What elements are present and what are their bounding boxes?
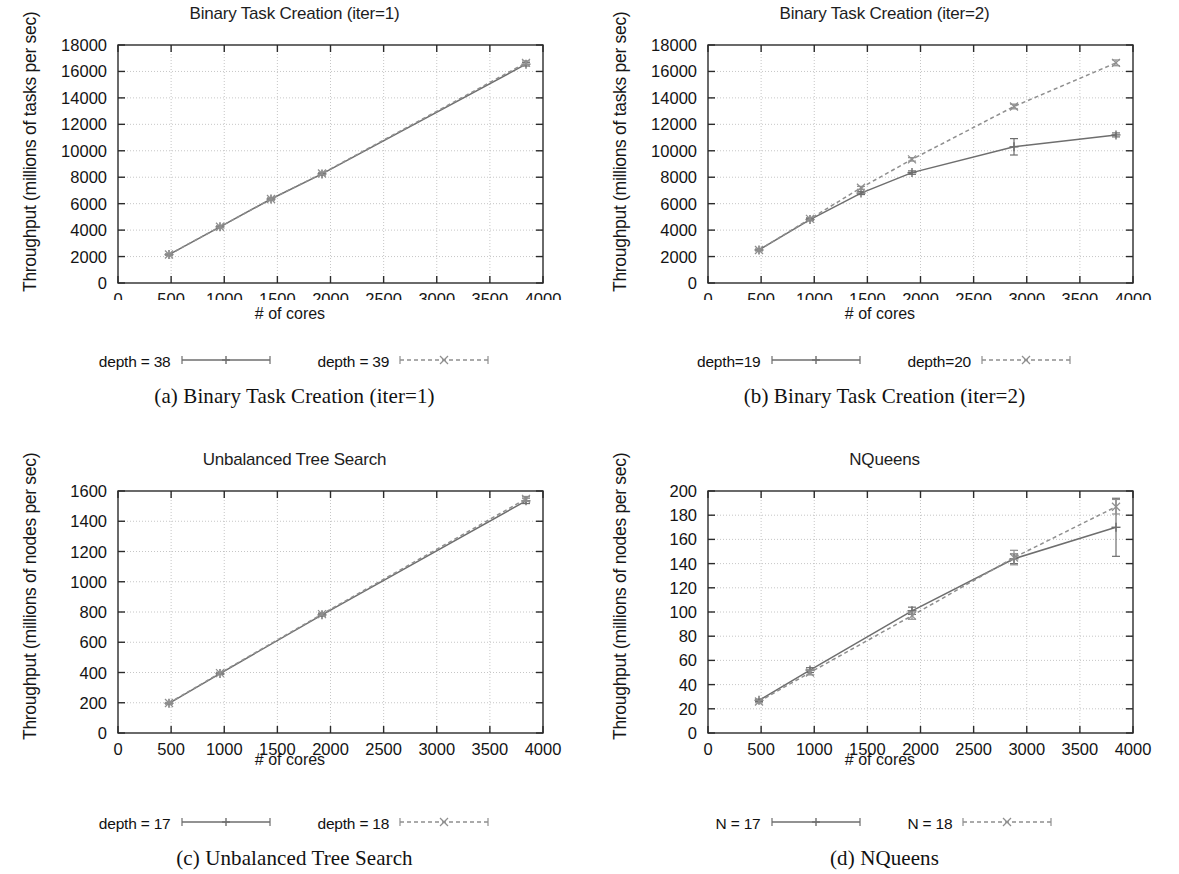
x-axis-label-d: # of cores (630, 751, 1130, 769)
legend-key-solid-icon (180, 353, 272, 367)
svg-text:1500: 1500 (259, 290, 296, 300)
legend-key-dashed-icon (980, 353, 1072, 367)
svg-text:0: 0 (98, 724, 107, 742)
svg-text:10000: 10000 (651, 142, 697, 160)
svg-text:14000: 14000 (61, 89, 107, 107)
svg-text:500: 500 (747, 290, 775, 300)
svg-text:4000: 4000 (525, 290, 562, 300)
legend-entry-label: depth = 38 (99, 353, 171, 371)
legend-key-solid-icon (770, 353, 862, 367)
legend-key (180, 353, 272, 371)
legend-entry-label: depth = 17 (99, 815, 171, 833)
svg-text:8000: 8000 (660, 168, 697, 186)
svg-text:3500: 3500 (472, 290, 509, 300)
legend-key (398, 815, 490, 833)
svg-text:18000: 18000 (651, 36, 697, 54)
svg-text:3500: 3500 (1062, 290, 1099, 300)
legend-key (180, 815, 272, 833)
legend-key-solid-icon (770, 815, 862, 829)
caption-d: (d) NQueens (590, 846, 1179, 871)
svg-text:800: 800 (79, 603, 107, 621)
svg-text:1200: 1200 (70, 543, 107, 561)
legend-entry-label: depth=20 (908, 353, 971, 371)
svg-text:3000: 3000 (1008, 290, 1045, 300)
legend-entry: depth = 18 (318, 814, 491, 833)
plot-area-c: 0200400600800100012001400160005001000150… (0, 446, 589, 756)
x-axis-label-a: # of cores (40, 305, 540, 323)
svg-text:18000: 18000 (61, 36, 107, 54)
plot-area-d: 0204060801001201401601802000500100015002… (590, 446, 1179, 756)
svg-text:1600: 1600 (70, 482, 107, 500)
svg-text:120: 120 (669, 579, 697, 597)
svg-text:200: 200 (669, 482, 697, 500)
legend-b: depth=19depth=20 (590, 352, 1179, 371)
x-axis-label-b: # of cores (630, 305, 1130, 323)
svg-text:1500: 1500 (849, 290, 886, 300)
svg-text:1400: 1400 (70, 512, 107, 530)
svg-text:80: 80 (679, 627, 697, 645)
svg-text:2000: 2000 (902, 290, 939, 300)
legend-c: depth = 17depth = 18 (0, 814, 589, 833)
svg-text:500: 500 (157, 290, 185, 300)
svg-text:3000: 3000 (418, 290, 455, 300)
svg-text:140: 140 (669, 555, 697, 573)
plot-area-a: 0200040006000800010000120001400016000180… (0, 0, 589, 300)
legend-entry-label: depth=19 (697, 353, 760, 371)
figure-grid: Binary Task Creation (iter=1) Throughput… (0, 0, 1179, 874)
legend-key (980, 353, 1072, 371)
svg-text:100: 100 (669, 603, 697, 621)
legend-entry-label: N = 18 (908, 815, 953, 833)
svg-text:2000: 2000 (70, 248, 107, 266)
svg-text:0: 0 (688, 724, 697, 742)
svg-text:60: 60 (679, 651, 697, 669)
legend-key-dashed-icon (398, 353, 490, 367)
chart-panel-b: Binary Task Creation (iter=2) Throughput… (590, 0, 1179, 437)
svg-text:6000: 6000 (70, 195, 107, 213)
legend-entry: depth = 38 (99, 352, 272, 371)
legend-key (770, 353, 862, 371)
caption-c: (c) Unbalanced Tree Search (0, 846, 589, 871)
x-axis-label-c: # of cores (40, 751, 540, 769)
legend-key-dashed-icon (398, 815, 490, 829)
svg-text:16000: 16000 (61, 62, 107, 80)
legend-key-dashed-icon (961, 815, 1053, 829)
svg-text:16000: 16000 (651, 62, 697, 80)
svg-text:4000: 4000 (660, 221, 697, 239)
svg-text:2500: 2500 (955, 290, 992, 300)
legend-entry: N = 17 (716, 814, 862, 833)
svg-text:1000: 1000 (796, 290, 833, 300)
svg-text:10000: 10000 (61, 142, 107, 160)
svg-text:0: 0 (688, 274, 697, 292)
legend-entry: depth=20 (908, 352, 1072, 371)
svg-text:1000: 1000 (206, 290, 243, 300)
svg-text:6000: 6000 (660, 195, 697, 213)
svg-text:1000: 1000 (70, 573, 107, 591)
svg-text:180: 180 (669, 506, 697, 524)
svg-text:8000: 8000 (70, 168, 107, 186)
legend-entry: depth = 39 (318, 352, 491, 371)
svg-text:12000: 12000 (651, 115, 697, 133)
svg-text:600: 600 (79, 633, 107, 651)
chart-panel-d: NQueens Throughput (millions of nodes pe… (590, 440, 1179, 874)
svg-text:0: 0 (113, 290, 122, 300)
svg-text:2000: 2000 (660, 248, 697, 266)
caption-a: (a) Binary Task Creation (iter=1) (0, 384, 589, 409)
svg-text:4000: 4000 (70, 221, 107, 239)
legend-key (398, 353, 490, 371)
chart-panel-a: Binary Task Creation (iter=1) Throughput… (0, 0, 589, 437)
legend-entry-label: depth = 39 (318, 353, 390, 371)
caption-b: (b) Binary Task Creation (iter=2) (590, 384, 1179, 409)
legend-entry-label: N = 17 (716, 815, 761, 833)
svg-text:40: 40 (679, 676, 697, 694)
plot-area-b: 0200040006000800010000120001400016000180… (590, 0, 1179, 300)
svg-text:20: 20 (679, 700, 697, 718)
svg-text:160: 160 (669, 530, 697, 548)
chart-panel-c: Unbalanced Tree Search Throughput (milli… (0, 440, 589, 874)
legend-d: N = 17N = 18 (590, 814, 1179, 833)
legend-entry: depth=19 (697, 352, 861, 371)
svg-text:0: 0 (703, 290, 712, 300)
svg-text:2000: 2000 (312, 290, 349, 300)
legend-key (770, 815, 862, 833)
legend-entry-label: depth = 18 (318, 815, 390, 833)
legend-key (961, 815, 1053, 833)
